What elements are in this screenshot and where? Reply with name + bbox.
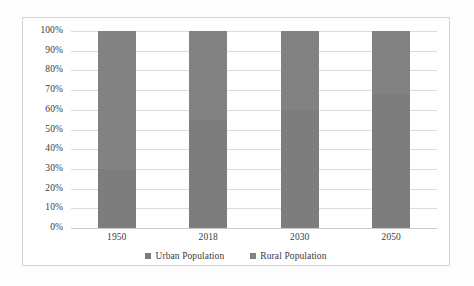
- bar-segment-rural-population-1950: [98, 31, 136, 169]
- chart-legend: Urban PopulationRural Population: [23, 251, 449, 261]
- legend-item-rural-population[interactable]: Rural Population: [250, 251, 326, 261]
- bar-group-2018: [189, 31, 227, 228]
- bar-segment-urban-population-2030: [281, 110, 319, 228]
- x-axis: 1950201820302050: [71, 232, 437, 250]
- legend-label: Rural Population: [260, 251, 326, 261]
- y-tick-label: 60%: [45, 105, 63, 115]
- y-tick-label: 40%: [45, 144, 63, 154]
- y-tick-label: 10%: [45, 204, 63, 214]
- y-tick-label: 50%: [45, 125, 63, 135]
- y-tick-label: 70%: [45, 85, 63, 95]
- bar-group-2050: [372, 31, 410, 228]
- y-tick-label: 0%: [50, 223, 63, 233]
- legend-swatch-icon: [145, 253, 151, 259]
- y-tick-label: 100%: [40, 26, 63, 36]
- x-tick-label-2050: 2050: [382, 232, 401, 242]
- bar-segment-urban-population-2018: [189, 120, 227, 228]
- bar-segment-urban-population-1950: [98, 169, 136, 228]
- x-tick-label-1950: 1950: [107, 232, 126, 242]
- bar-group-2030: [281, 31, 319, 228]
- legend-label: Urban Population: [155, 251, 224, 261]
- y-axis: 0%10%20%30%40%50%60%70%80%90%100%: [23, 31, 67, 228]
- bar-segment-urban-population-2050: [372, 94, 410, 228]
- gridline-0%: [71, 228, 437, 229]
- legend-item-urban-population[interactable]: Urban Population: [145, 251, 224, 261]
- x-tick-label-2018: 2018: [199, 232, 218, 242]
- chart-frame: 0%10%20%30%40%50%60%70%80%90%100% 195020…: [22, 17, 450, 266]
- chart-page: 0%10%20%30%40%50%60%70%80%90%100% 195020…: [0, 0, 474, 286]
- bar-group-1950: [98, 31, 136, 228]
- x-tick-label-2030: 2030: [290, 232, 309, 242]
- y-tick-label: 30%: [45, 164, 63, 174]
- bar-segment-rural-population-2030: [281, 31, 319, 110]
- plot-area: [71, 31, 437, 228]
- y-tick-label: 90%: [45, 46, 63, 56]
- bar-segment-rural-population-2018: [189, 31, 227, 120]
- bar-segment-rural-population-2050: [372, 31, 410, 94]
- legend-swatch-icon: [250, 253, 256, 259]
- y-tick-label: 80%: [45, 66, 63, 76]
- y-tick-label: 20%: [45, 184, 63, 194]
